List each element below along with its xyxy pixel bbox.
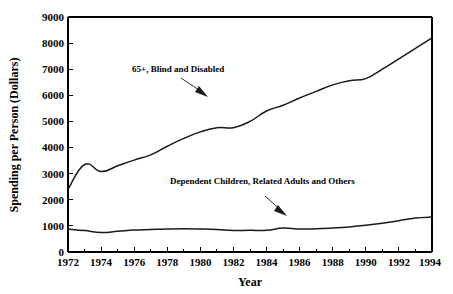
x-tick-label: 1992 xyxy=(388,256,411,268)
y-tick-label: 4000 xyxy=(42,141,65,153)
y-tick-marks xyxy=(68,17,73,252)
y-tick-label: 8000 xyxy=(42,37,65,49)
y-tick-label: 2000 xyxy=(42,194,65,206)
y-tick-label: 6000 xyxy=(42,89,65,101)
series-line-dependent-children xyxy=(68,217,432,232)
x-tick-label: 1978 xyxy=(156,256,179,268)
y-tick-label: 1000 xyxy=(42,220,65,232)
x-tick-label: 1988 xyxy=(322,256,345,268)
x-tick-label: 1982 xyxy=(223,256,246,268)
x-tick-label: 1984 xyxy=(256,256,279,268)
y-tick-label: 7000 xyxy=(42,63,65,75)
plot-frame xyxy=(68,17,432,252)
x-axis-title: Year xyxy=(238,275,263,289)
lower-series-annotation: Dependent Children, Related Adults and O… xyxy=(170,176,355,216)
x-tick-marks xyxy=(68,247,432,252)
x-tick-label: 1974 xyxy=(90,256,113,268)
lower-series-annotation-label: Dependent Children, Related Adults and O… xyxy=(170,176,355,186)
series-line-65plus-blind-disabled xyxy=(68,38,432,189)
line-chart: 0 1000 2000 3000 4000 5000 6000 7000 800… xyxy=(0,0,453,294)
x-tick-labels: 1972 1974 1976 1978 1980 1982 1984 1986 … xyxy=(57,256,442,268)
x-tick-label: 1972 xyxy=(57,256,80,268)
y-axis-title: Spending per Person (Dollars) xyxy=(7,58,21,213)
y-tick-label: 9000 xyxy=(42,11,65,23)
y-tick-label: 5000 xyxy=(42,115,65,127)
upper-annotation-arrow-icon xyxy=(195,86,208,97)
x-tick-label: 1980 xyxy=(189,256,212,268)
lower-annotation-arrow-icon xyxy=(274,205,287,216)
x-tick-label: 1990 xyxy=(355,256,378,268)
y-tick-labels: 0 1000 2000 3000 4000 5000 6000 7000 800… xyxy=(42,11,65,258)
x-tick-label: 1994 xyxy=(419,256,442,268)
chart-container: 0 1000 2000 3000 4000 5000 6000 7000 800… xyxy=(0,0,453,294)
upper-series-annotation-label: 65+, Blind and Disabled xyxy=(132,64,224,74)
x-tick-label: 1976 xyxy=(123,256,146,268)
x-tick-label: 1986 xyxy=(289,256,312,268)
upper-series-annotation: 65+, Blind and Disabled xyxy=(132,64,224,97)
y-tick-label: 3000 xyxy=(42,168,65,180)
